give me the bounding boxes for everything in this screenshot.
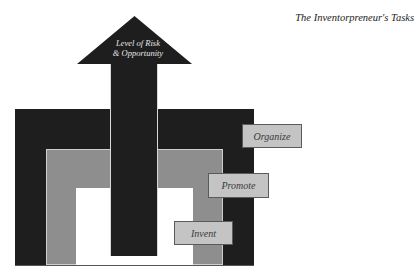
arrow-label-line2: & Opportunity <box>96 48 180 58</box>
label-invent: Invent <box>174 221 233 245</box>
baseline-divider <box>15 265 254 266</box>
label-organize: Organize <box>242 124 302 148</box>
arrow-label-line1: Level of Risk <box>96 38 180 48</box>
arrow-shaft <box>110 62 158 256</box>
diagram-title: The Inventorpreneur's Tasks <box>268 12 414 23</box>
arrow-label: Level of Risk & Opportunity <box>96 38 180 58</box>
label-promote: Promote <box>208 173 269 198</box>
